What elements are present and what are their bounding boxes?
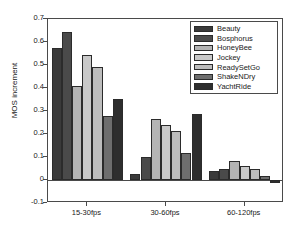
bar [260, 176, 270, 180]
x-tick-mark [165, 202, 166, 206]
legend-swatch [194, 54, 213, 61]
legend-swatch [194, 74, 213, 81]
x-tick-label: 15-30fps [72, 208, 101, 217]
bar [151, 119, 161, 180]
y-tick-mark [43, 156, 47, 157]
legend-swatch [194, 26, 213, 33]
legend-label: Bosphorus [217, 34, 253, 43]
legend-swatch [194, 83, 213, 90]
bar [72, 86, 82, 180]
chart-legend: BeautyBosphorusHoneyBeeJockeyReadySetGoS… [190, 21, 278, 94]
legend-label: YachtRide [217, 82, 251, 91]
legend-label: HoneyBee [217, 43, 252, 52]
legend-item: HoneyBee [194, 43, 274, 53]
bar [82, 55, 92, 180]
bar [92, 67, 102, 180]
bar [113, 99, 123, 180]
figure-canvas: MOS increment 0.70.60.50.40.30.20.10-0.1… [0, 0, 296, 236]
legend-label: ShakeNDry [217, 72, 255, 81]
bar [240, 166, 250, 180]
x-tick-label: 30-60fps [150, 208, 179, 217]
y-tick-mark [43, 133, 47, 134]
bar [103, 116, 113, 180]
bar [62, 32, 72, 180]
legend-item: Bosphorus [194, 34, 274, 44]
legend-item: YachtRide [194, 82, 274, 92]
x-tick-label: 60-120fps [227, 208, 260, 217]
y-tick-mark [43, 18, 47, 19]
bar [219, 169, 229, 180]
bar [161, 125, 171, 180]
y-tick-mark [43, 41, 47, 42]
legend-item: ReadySetGo [194, 62, 274, 72]
bar [52, 48, 62, 180]
y-tick-mark [43, 202, 47, 203]
y-axis-ticks: 0.70.60.50.40.30.20.10-0.1 [0, 18, 44, 202]
bar [141, 157, 151, 180]
y-tick-mark [43, 179, 47, 180]
legend-swatch [194, 35, 213, 42]
legend-item: Jockey [194, 53, 274, 63]
legend-swatch [194, 45, 213, 52]
legend-swatch [194, 64, 213, 71]
legend-label: Jockey [217, 53, 240, 62]
y-tick-mark [43, 87, 47, 88]
zero-baseline [48, 180, 282, 181]
bar [209, 171, 219, 180]
y-tick-mark [43, 64, 47, 65]
bar [171, 131, 181, 180]
bar [250, 169, 260, 180]
bar [229, 161, 239, 180]
bar [130, 174, 140, 180]
y-tick-mark [43, 110, 47, 111]
x-tick-mark [86, 202, 87, 206]
legend-item: ShakeNDry [194, 72, 274, 82]
legend-label: Beauty [217, 24, 240, 33]
bar [270, 180, 280, 183]
bar [192, 114, 202, 180]
legend-item: Beauty [194, 24, 274, 34]
legend-label: ReadySetGo [217, 63, 260, 72]
x-tick-mark [244, 202, 245, 206]
bar [181, 153, 191, 180]
